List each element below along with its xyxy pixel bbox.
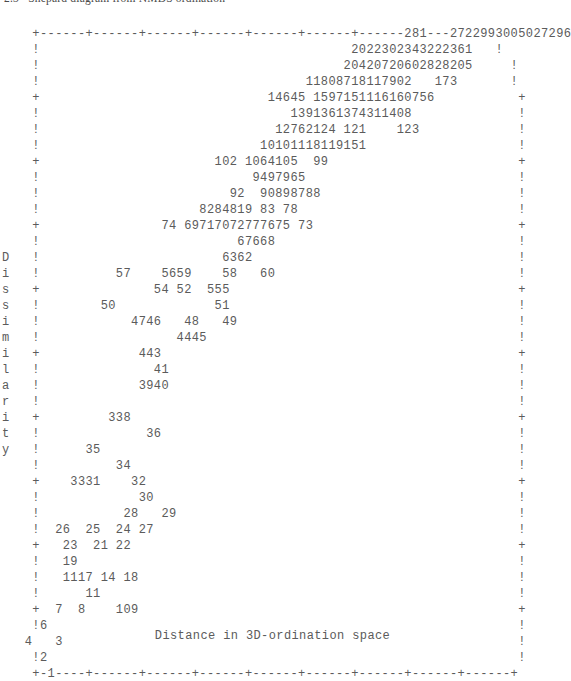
plot-row: ! 26 25 24 27 ! — [2, 522, 547, 538]
plot-row: ! 8284819 83 78 ! — [2, 202, 547, 218]
plot-row: D ! 6362 ! — [2, 250, 547, 266]
plot-row: ! 10101118119151 ! — [2, 138, 547, 154]
plot-row: ! 92 90898788 ! — [2, 186, 547, 202]
plot-row: m ! 4445 ! — [2, 330, 547, 346]
plot-row: + 23 21 22 + — [2, 538, 547, 554]
x-axis-label-wrap: Distance in 3D-ordination space — [0, 626, 545, 644]
plot-row: ! 12762124 121 123 ! — [2, 122, 547, 138]
ascii-plot-canvas: +------+------+------+------+------+----… — [0, 26, 547, 681]
plot-row: + 102 1064105 99 + — [2, 154, 547, 170]
plot-row: !2 ! — [2, 650, 547, 666]
plot-row: + 3331 32 + — [2, 474, 547, 490]
x-axis-line: +-1----+------+------+------+------+----… — [2, 666, 547, 681]
plot-row: l ! 41 ! — [2, 362, 547, 378]
plot-row: ! 34 ! — [2, 458, 547, 474]
plot-row: ! 19 ! — [2, 554, 547, 570]
plot-row: ! 9497965 ! — [2, 170, 547, 186]
plot-row: i + 443 + — [2, 346, 547, 362]
plot-row: + 14645 1597151116160756 + — [2, 90, 547, 106]
x-axis-label: Distance in 3D-ordination space — [155, 629, 390, 643]
plot-row: ! 67668 ! — [2, 234, 547, 250]
plot-row: +------+------+------+------+------+----… — [2, 26, 547, 42]
plot-row: s ! 50 51 ! — [2, 298, 547, 314]
plot-row: y ! 35 ! — [2, 442, 547, 458]
plot-row: r ! ! — [2, 394, 547, 410]
plot-row: ! 30 ! — [2, 490, 547, 506]
plot-row: i ! 4746 48 49 ! — [2, 314, 547, 330]
plot-row: ! 11808718117902 173 ! — [2, 74, 547, 90]
figure-title: 2.3 Shepard diagram from NMDS ordination — [0, 0, 545, 5]
plot-row: ! 28 29 ! — [2, 506, 547, 522]
plot-row: + 7 8 109 + — [2, 602, 547, 618]
plot-row: s + 54 52 555 + — [2, 282, 547, 298]
plot-row: ! 1117 14 18 ! — [2, 570, 547, 586]
plot-row: ! 11 ! — [2, 586, 547, 602]
plot-row: i ! 57 5659 58 60 ! — [2, 266, 547, 282]
plot-row: t ! 36 ! — [2, 426, 547, 442]
plot-row: a ! 3940 ! — [2, 378, 547, 394]
plot-row: + 74 69717072777675 73 + — [2, 218, 547, 234]
plot-row: ! 2022302343222361 ! — [2, 42, 547, 58]
plot-row: ! 20420720602828205 ! — [2, 58, 547, 74]
figure-title-strip: 2.3 Shepard diagram from NMDS ordination — [0, 0, 545, 5]
plot-row: ! 1391361374311408 ! — [2, 106, 547, 122]
plot-row: i + 338 + — [2, 410, 547, 426]
